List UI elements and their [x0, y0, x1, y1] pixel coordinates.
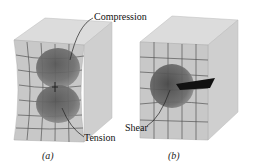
caption-a: (a) [42, 150, 54, 161]
cube-b [140, 16, 238, 140]
cube-a [14, 18, 112, 142]
diagram-canvas [0, 0, 258, 168]
label-compression: Compression [94, 11, 147, 22]
label-shear: Shear [125, 122, 148, 133]
label-tension: Tension [84, 132, 116, 143]
caption-b: (b) [168, 150, 180, 161]
